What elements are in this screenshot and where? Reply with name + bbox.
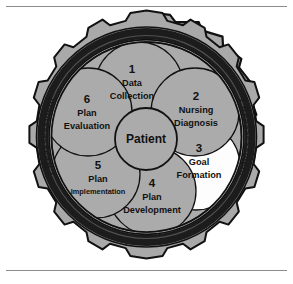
segment-3-line2: Formation <box>177 170 222 180</box>
segment-4-line2: Development <box>123 205 181 215</box>
segment-4-line1: Plan <box>142 192 162 202</box>
segment-3-line1: Goal <box>189 157 209 167</box>
segment-2-line1: Nursing <box>179 105 214 115</box>
segment-3-number: 3 <box>196 142 202 154</box>
segment-5-line1: Plan <box>88 174 108 184</box>
segment-5-number: 5 <box>95 159 102 171</box>
segment-6-line1: Plan <box>77 108 97 118</box>
segment-1-line2: Collection <box>110 91 155 101</box>
patient-label: Patient <box>126 132 166 146</box>
nursing-process-figure: 7 Reassessment 7 Reassessment 7 Reassess… <box>0 8 293 266</box>
segment-4-number: 4 <box>149 177 156 189</box>
top-divider-rule <box>6 6 287 7</box>
diagram-page: 7 Reassessment 7 Reassessment 7 Reassess… <box>0 0 293 284</box>
segment-5-line2: Implementation <box>71 187 126 196</box>
segment-6-line2: Evaluation <box>64 121 111 131</box>
segment-1-number: 1 <box>129 63 136 75</box>
segment-1-line1: Data <box>122 78 143 88</box>
patient-center[interactable]: Patient <box>115 108 177 170</box>
segment-2-number: 2 <box>193 90 199 102</box>
segment-2-line2: Diagnosis <box>174 118 218 128</box>
segment-6-number: 6 <box>84 93 90 105</box>
bottom-divider-rule <box>6 270 287 271</box>
